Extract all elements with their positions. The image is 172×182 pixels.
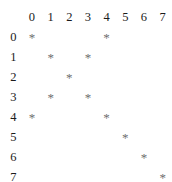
matrix-cell-r0c6 bbox=[135, 27, 154, 47]
matrix-grid-table: 0 1 2 3 4 5 6 7 0 * * bbox=[4, 8, 172, 182]
asterisk-marker: * bbox=[122, 128, 129, 147]
row-header-4: 4 bbox=[4, 107, 23, 127]
matrix-row: 0 * * bbox=[4, 27, 172, 47]
matrix-cell-r5c2 bbox=[60, 127, 79, 147]
column-header-0: 0 bbox=[23, 8, 42, 27]
matrix-cell-r4c3 bbox=[79, 107, 98, 127]
matrix-cell-r2c1 bbox=[41, 67, 60, 87]
column-header-2: 2 bbox=[60, 8, 79, 27]
matrix-cell-r6c0 bbox=[23, 147, 42, 167]
matrix-cell-r7c0 bbox=[23, 167, 42, 182]
matrix-cell-r6c6: * bbox=[135, 147, 154, 167]
matrix-cell-r2c4 bbox=[97, 67, 116, 87]
matrix-cell-r4c2 bbox=[60, 107, 79, 127]
matrix-cell-r7c3 bbox=[79, 167, 98, 182]
matrix-row: 2 * bbox=[4, 67, 172, 87]
matrix-cell-r1c7 bbox=[153, 47, 172, 67]
matrix-cell-r1c1: * bbox=[41, 47, 60, 67]
matrix-cell-r3c4 bbox=[97, 87, 116, 107]
asterisk-marker: * bbox=[159, 168, 166, 182]
matrix-cell-r6c2 bbox=[60, 147, 79, 167]
row-header-2: 2 bbox=[4, 67, 23, 87]
column-header-5: 5 bbox=[116, 8, 135, 27]
matrix-cell-r7c7: * bbox=[153, 167, 172, 182]
matrix-cell-r7c2 bbox=[60, 167, 79, 182]
matrix-cell-r2c5 bbox=[116, 67, 135, 87]
matrix-cell-r6c4 bbox=[97, 147, 116, 167]
asterisk-marker: * bbox=[66, 68, 73, 87]
matrix-cell-r0c3 bbox=[79, 27, 98, 47]
matrix-cell-r6c3 bbox=[79, 147, 98, 167]
asterisk-marker: * bbox=[47, 88, 54, 107]
matrix-cell-r5c0 bbox=[23, 127, 42, 147]
column-header-6: 6 bbox=[135, 8, 154, 27]
matrix-cell-r5c5: * bbox=[116, 127, 135, 147]
asterisk-marker: * bbox=[29, 108, 36, 127]
matrix-cell-r2c7 bbox=[153, 67, 172, 87]
matrix-column-header-row: 0 1 2 3 4 5 6 7 bbox=[4, 8, 172, 27]
matrix-cell-r1c6 bbox=[135, 47, 154, 67]
matrix-cell-r0c4: * bbox=[97, 27, 116, 47]
asterisk-marker: * bbox=[141, 148, 148, 167]
matrix-row: 7 * bbox=[4, 167, 172, 182]
matrix-cell-r3c7 bbox=[153, 87, 172, 107]
asterisk-marker: * bbox=[29, 28, 36, 47]
column-header-3: 3 bbox=[79, 8, 98, 27]
asterisk-marker: * bbox=[103, 28, 110, 47]
matrix-cell-r5c1 bbox=[41, 127, 60, 147]
asterisk-marker: * bbox=[103, 108, 110, 127]
row-header-3: 3 bbox=[4, 87, 23, 107]
matrix-cell-r3c0 bbox=[23, 87, 42, 107]
asterisk-marker: * bbox=[85, 88, 92, 107]
matrix-row: 6 * bbox=[4, 147, 172, 167]
matrix-column-header-row-group: 0 1 2 3 4 5 6 7 bbox=[4, 8, 172, 27]
matrix-cell-r7c5 bbox=[116, 167, 135, 182]
asterisk-marker: * bbox=[47, 48, 54, 67]
matrix-cell-r4c4: * bbox=[97, 107, 116, 127]
matrix-cell-r0c7 bbox=[153, 27, 172, 47]
matrix-cell-r1c5 bbox=[116, 47, 135, 67]
grid-corner-spacer bbox=[4, 8, 23, 27]
matrix-row: 5 * bbox=[4, 127, 172, 147]
matrix-cell-r0c5 bbox=[116, 27, 135, 47]
matrix-cell-r3c3: * bbox=[79, 87, 98, 107]
asterisk-marker: * bbox=[85, 48, 92, 67]
matrix-cell-r4c6 bbox=[135, 107, 154, 127]
matrix-cell-r0c0: * bbox=[23, 27, 42, 47]
matrix-cell-r2c6 bbox=[135, 67, 154, 87]
matrix-cell-r0c1 bbox=[41, 27, 60, 47]
matrix-cell-r2c2: * bbox=[60, 67, 79, 87]
matrix-cell-r3c5 bbox=[116, 87, 135, 107]
matrix-cell-r1c0 bbox=[23, 47, 42, 67]
matrix-cell-r2c3 bbox=[79, 67, 98, 87]
matrix-row: 4 * * bbox=[4, 107, 172, 127]
matrix-cell-r4c7 bbox=[153, 107, 172, 127]
matrix-row: 1 * * bbox=[4, 47, 172, 67]
matrix-cell-r1c4 bbox=[97, 47, 116, 67]
row-header-7: 7 bbox=[4, 167, 23, 182]
matrix-cell-r1c2 bbox=[60, 47, 79, 67]
row-header-1: 1 bbox=[4, 47, 23, 67]
matrix-cell-r2c0 bbox=[23, 67, 42, 87]
matrix-body: 0 * * 1 * * 2 bbox=[4, 27, 172, 182]
row-header-0: 0 bbox=[4, 27, 23, 47]
matrix-cell-r3c1: * bbox=[41, 87, 60, 107]
column-header-7: 7 bbox=[153, 8, 172, 27]
matrix-row: 3 * * bbox=[4, 87, 172, 107]
matrix-cell-r4c0: * bbox=[23, 107, 42, 127]
matrix-cell-r5c4 bbox=[97, 127, 116, 147]
matrix-cell-r1c3: * bbox=[79, 47, 98, 67]
matrix-cell-r3c2 bbox=[60, 87, 79, 107]
matrix-cell-r7c1 bbox=[41, 167, 60, 182]
matrix-cell-r5c3 bbox=[79, 127, 98, 147]
matrix-cell-r7c4 bbox=[97, 167, 116, 182]
row-header-5: 5 bbox=[4, 127, 23, 147]
matrix-cell-r4c5 bbox=[116, 107, 135, 127]
matrix-cell-r4c1 bbox=[41, 107, 60, 127]
matrix-cell-r7c6 bbox=[135, 167, 154, 182]
matrix-cell-r5c7 bbox=[153, 127, 172, 147]
matrix-cell-r5c6 bbox=[135, 127, 154, 147]
column-header-1: 1 bbox=[41, 8, 60, 27]
matrix-cell-r6c5 bbox=[116, 147, 135, 167]
row-header-6: 6 bbox=[4, 147, 23, 167]
